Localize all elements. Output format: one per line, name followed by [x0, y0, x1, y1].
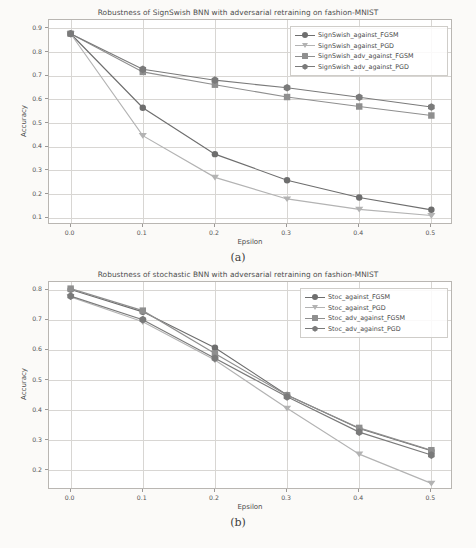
data-point-marker [427, 481, 435, 487]
data-point-marker [140, 104, 146, 110]
chart-b-x-axis-label: Epsilon [48, 503, 452, 511]
x-axis-tick-label: 0.5 [416, 494, 444, 501]
y-tick-mark [45, 98, 48, 99]
x-tick-mark [142, 489, 143, 492]
x-axis-tick-label: 0.3 [272, 229, 300, 236]
y-axis-tick-label: 0.2 [14, 466, 42, 473]
x-tick-mark [430, 489, 431, 492]
data-point-marker [67, 285, 73, 291]
chart-b-legend: Stoc_against_FGSMStoc_against_PGDStoc_ad… [300, 288, 448, 338]
x-tick-mark [430, 224, 431, 227]
y-tick-mark [45, 169, 48, 170]
chart-panel-b: Robustness of stochastic BNN with advers… [0, 262, 476, 548]
data-point-marker [139, 316, 146, 324]
x-axis-tick-label: 0.2 [200, 494, 228, 501]
x-tick-mark [358, 224, 359, 227]
data-point-marker [428, 112, 434, 118]
y-tick-mark [45, 75, 48, 76]
y-axis-tick-label: 0.6 [14, 345, 42, 352]
data-point-marker [212, 151, 218, 157]
legend-marker-triangle-down-icon [302, 43, 308, 48]
legend-marker-sample [305, 292, 325, 302]
data-point-marker [355, 452, 363, 458]
y-axis-tick-label: 0.5 [14, 376, 42, 383]
x-axis-tick-label: 0.3 [272, 494, 300, 501]
data-point-marker [284, 84, 291, 92]
y-tick-mark [45, 319, 48, 320]
y-tick-mark [45, 146, 48, 147]
legend-marker-square-icon [302, 53, 308, 59]
x-tick-mark [70, 489, 71, 492]
x-axis-tick-label: 0.0 [56, 494, 84, 501]
subfigure-caption-b: (b) [0, 516, 476, 529]
chart-a-legend: SignSwish_against_FGSMSignSwish_against_… [290, 26, 448, 76]
y-axis-tick-label: 0.7 [14, 315, 42, 322]
legend-item[interactable]: SignSwish_adv_against_FGSM [295, 51, 442, 62]
data-point-marker [356, 93, 363, 101]
legend-marker-triangle-down-icon [312, 305, 318, 310]
y-tick-mark [45, 349, 48, 350]
y-tick-mark [45, 379, 48, 380]
chart-a-x-axis-label: Epsilon [48, 238, 452, 246]
data-point-marker [428, 207, 434, 213]
data-point-marker [67, 292, 74, 300]
chart-a-title: Robustness of SignSwish BNN with adversa… [0, 8, 476, 17]
data-point-marker [284, 177, 290, 183]
y-tick-mark [45, 27, 48, 28]
data-point-marker [139, 133, 147, 139]
y-axis-tick-label: 0.8 [14, 285, 42, 292]
legend-marker-sample [305, 313, 325, 323]
x-axis-tick-label: 0.4 [344, 229, 372, 236]
legend-label: SignSwish_against_PGD [318, 41, 394, 51]
legend-label: Stoc_adv_against_FGSM [328, 313, 405, 323]
legend-marker-sample [295, 62, 315, 72]
x-tick-mark [142, 224, 143, 227]
y-tick-mark [45, 193, 48, 194]
y-tick-mark [45, 439, 48, 440]
x-axis-tick-label: 0.4 [344, 494, 372, 501]
data-point-marker [356, 194, 362, 200]
y-axis-tick-label: 0.4 [14, 406, 42, 413]
y-axis-tick-label: 0.9 [14, 24, 42, 31]
legend-marker-sample [295, 51, 315, 61]
legend-label: Stoc_against_FGSM [328, 292, 390, 302]
data-point-marker [428, 103, 435, 111]
legend-item[interactable]: SignSwish_against_FGSM [295, 30, 442, 41]
legend-marker-sample [305, 324, 325, 334]
data-point-marker [284, 94, 290, 100]
legend-item[interactable]: Stoc_against_FGSM [305, 292, 442, 303]
data-point-marker [356, 103, 362, 109]
legend-marker-sample [295, 30, 315, 40]
legend-marker-sample [305, 303, 325, 313]
legend-marker-circle-icon [302, 32, 308, 38]
x-tick-mark [286, 224, 287, 227]
legend-item[interactable]: SignSwish_against_PGD [295, 41, 442, 52]
chart-panel-a: Robustness of SignSwish BNN with adversa… [0, 0, 476, 274]
y-tick-mark [45, 51, 48, 52]
y-tick-mark [45, 289, 48, 290]
y-tick-mark [45, 469, 48, 470]
legend-label: SignSwish_adv_against_PGD [318, 62, 409, 72]
legend-label: Stoc_adv_against_PGD [328, 324, 401, 334]
y-tick-mark [45, 122, 48, 123]
y-axis-tick-label: 0.5 [14, 119, 42, 126]
x-tick-mark [214, 489, 215, 492]
y-axis-tick-label: 0.7 [14, 71, 42, 78]
x-axis-tick-label: 0.2 [200, 229, 228, 236]
x-axis-tick-label: 0.5 [416, 229, 444, 236]
x-tick-mark [70, 224, 71, 227]
x-axis-tick-label: 0.0 [56, 229, 84, 236]
legend-marker-hexagon-icon [302, 64, 308, 70]
legend-item[interactable]: Stoc_adv_against_PGD [305, 324, 442, 335]
legend-label: SignSwish_adv_against_FGSM [318, 51, 413, 61]
y-axis-tick-label: 0.3 [14, 436, 42, 443]
data-point-marker [212, 344, 218, 350]
y-axis-tick-label: 0.2 [14, 190, 42, 197]
x-tick-mark [286, 489, 287, 492]
legend-item[interactable]: SignSwish_adv_against_PGD [295, 62, 442, 73]
figure-container: Robustness of SignSwish BNN with adversa… [0, 0, 476, 548]
chart-b-title: Robustness of stochastic BNN with advers… [0, 270, 476, 279]
legend-item[interactable]: Stoc_against_PGD [305, 303, 442, 314]
legend-item[interactable]: Stoc_adv_against_FGSM [305, 313, 442, 324]
y-tick-mark [45, 217, 48, 218]
